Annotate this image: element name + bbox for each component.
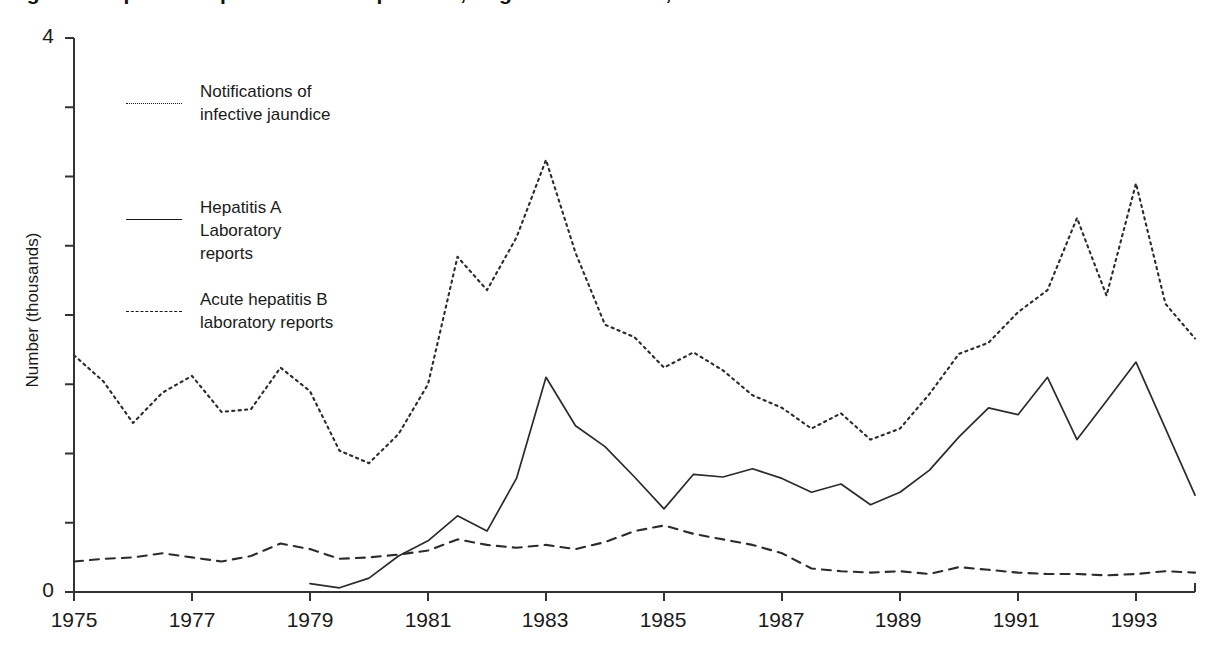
series-line-2 [74,526,1195,576]
plot-area [0,0,1219,655]
axis-lines [65,38,1195,601]
figure-container: Figure 1 Reported hepatitis A and hepati… [0,0,1219,655]
series-lines [74,160,1195,588]
series-line-0 [74,160,1195,463]
